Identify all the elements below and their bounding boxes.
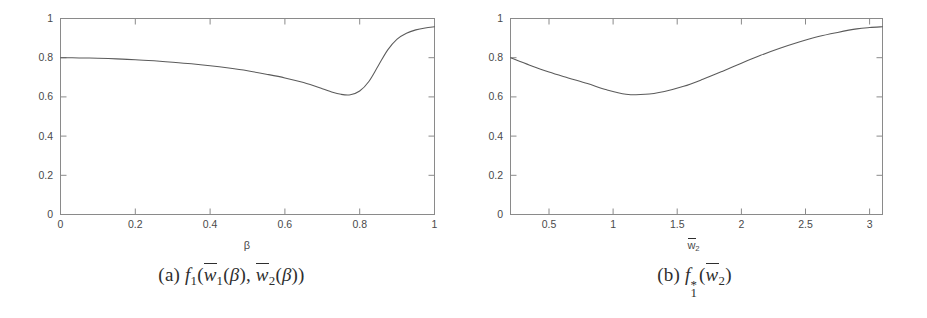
x-tick-label-a-1: 0.2 bbox=[128, 218, 143, 230]
x-tick-label-a-4: 0.8 bbox=[352, 218, 367, 230]
y-tick-label-a-4: 0.8 bbox=[38, 51, 53, 63]
x-axis-title-b-sub: 2 bbox=[695, 244, 699, 253]
caption-w2-b: w bbox=[706, 264, 719, 286]
x-tick-label-b-1: 1 bbox=[610, 218, 616, 230]
y-tick-label-b-0: 0 bbox=[497, 208, 503, 220]
panel-caption-b: (b) f*1(w2) bbox=[463, 264, 926, 289]
y-tick-label-b-5: 1 bbox=[497, 12, 503, 24]
x-tick-label-b-5: 3 bbox=[867, 218, 873, 230]
caption-f-sub-b: 1 bbox=[691, 285, 698, 301]
figure-panel-a: 0 0.2 0.4 0.6 0.8 1 0 0.2 0.4 0.6 0.8 1 … bbox=[0, 0, 463, 318]
y-tick-label-a-1: 0.2 bbox=[38, 169, 53, 181]
plot-frame-a bbox=[61, 19, 435, 215]
plot-b: 0.5 1 1.5 2 2.5 3 0 0.2 0.4 0.6 0.8 1 bbox=[463, 0, 926, 260]
y-tick-label-a-5: 1 bbox=[47, 12, 53, 24]
caption-beta2-a: β bbox=[282, 264, 292, 285]
x-ticks-b bbox=[549, 19, 870, 215]
data-curve-b bbox=[511, 27, 883, 95]
x-axis-title-b-base: w bbox=[687, 239, 695, 251]
caption-tag-b: (b) bbox=[657, 264, 680, 285]
x-tick-label-b-2: 1.5 bbox=[670, 218, 685, 230]
y-ticks-b bbox=[511, 19, 883, 215]
caption-comma-a: , bbox=[246, 264, 256, 285]
x-tick-label-a-2: 0.4 bbox=[203, 218, 218, 230]
x-tick-label-a-3: 0.6 bbox=[278, 218, 293, 230]
x-tick-label-b-3: 2 bbox=[738, 218, 744, 230]
x-tick-label-b-4: 2.5 bbox=[798, 218, 813, 230]
y-ticks-a bbox=[61, 19, 435, 215]
caption-beta1-a: β bbox=[230, 264, 240, 285]
plot-a: 0 0.2 0.4 0.6 0.8 1 0 0.2 0.4 0.6 0.8 1 … bbox=[0, 0, 463, 260]
caption-tag-a: (a) bbox=[158, 264, 180, 285]
y-tick-label-b-3: 0.6 bbox=[488, 90, 503, 102]
x-tick-label-a-5: 1 bbox=[432, 218, 438, 230]
caption-w2-a: w bbox=[256, 264, 269, 286]
x-tick-label-a-0: 0 bbox=[58, 218, 64, 230]
y-tick-label-a-2: 0.4 bbox=[38, 130, 53, 142]
panel-caption-a: (a) f1(w1(β), w2(β)) bbox=[0, 264, 463, 289]
y-tick-label-b-1: 0.2 bbox=[488, 169, 503, 181]
x-ticks-a bbox=[61, 19, 435, 215]
y-tick-label-b-2: 0.4 bbox=[488, 130, 503, 142]
y-tick-label-a-3: 0.6 bbox=[38, 90, 53, 102]
caption-close-b: ) bbox=[725, 264, 732, 285]
figure-container: 0 0.2 0.4 0.6 0.8 1 0 0.2 0.4 0.6 0.8 1 … bbox=[0, 0, 927, 318]
x-axis-title-b: w2 bbox=[463, 239, 926, 253]
figure-panel-b: 0.5 1 1.5 2 2.5 3 0 0.2 0.4 0.6 0.8 1 w2… bbox=[463, 0, 926, 318]
caption-w1-a: w bbox=[204, 264, 217, 286]
x-tick-label-b-0: 0.5 bbox=[542, 218, 557, 230]
data-curve-a bbox=[61, 27, 435, 95]
y-tick-label-a-0: 0 bbox=[47, 208, 53, 220]
x-axis-title-a: β bbox=[244, 239, 250, 251]
caption-close-a: ) bbox=[298, 264, 305, 285]
plot-frame-b bbox=[511, 19, 883, 215]
y-tick-label-b-4: 0.8 bbox=[488, 51, 503, 63]
